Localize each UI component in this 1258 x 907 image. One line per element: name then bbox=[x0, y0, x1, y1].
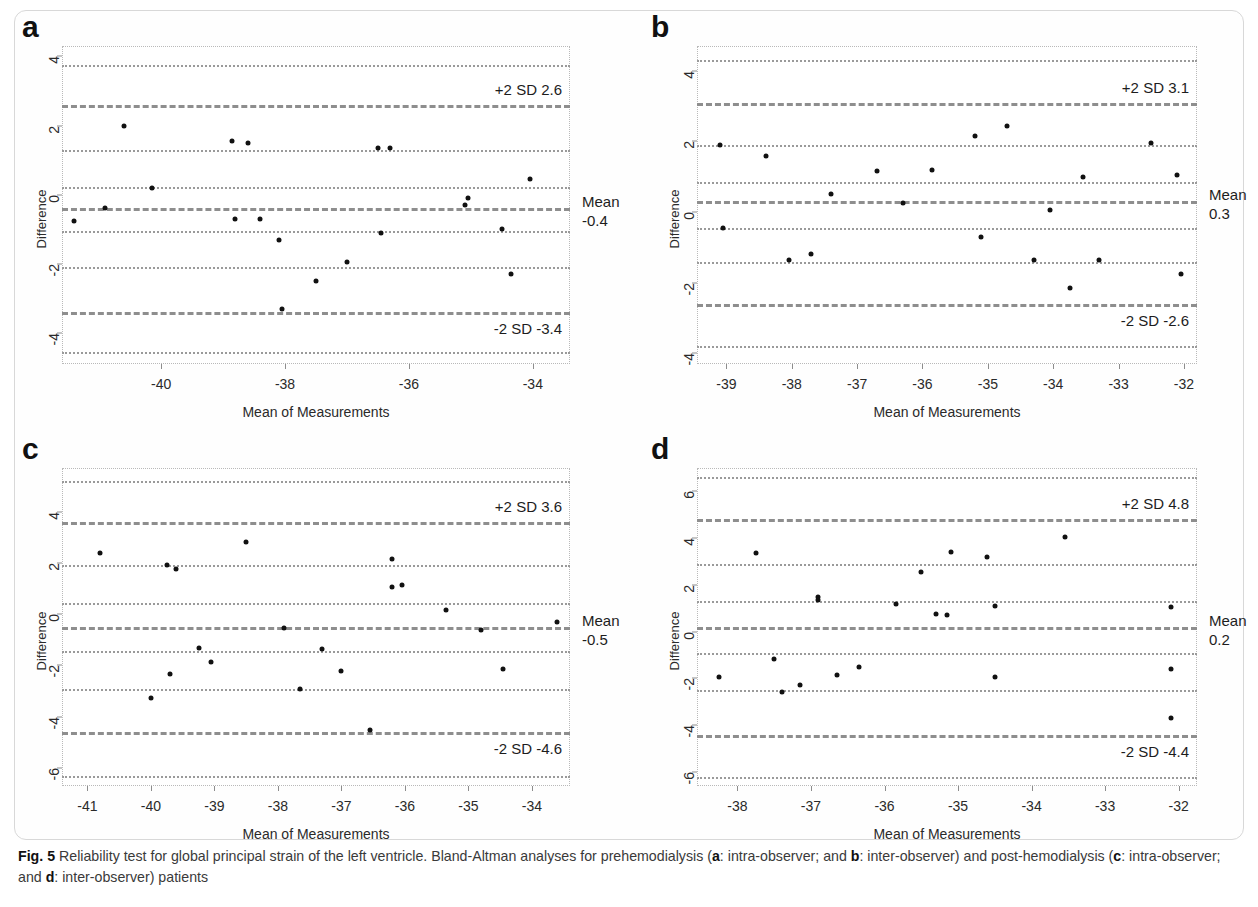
gridline bbox=[697, 60, 1197, 62]
y-axis-tick-mark bbox=[57, 56, 62, 57]
data-point bbox=[245, 140, 250, 145]
x-axis-tick-label: -38 bbox=[782, 376, 802, 392]
y-axis-tick-label: 2 bbox=[681, 141, 697, 149]
data-point bbox=[196, 645, 201, 650]
panel-c-mean-value: -0.5 bbox=[582, 631, 620, 650]
panel-b-upper-limit-label: +2 SD 3.1 bbox=[1122, 79, 1189, 96]
y-axis-tick-mark bbox=[57, 332, 62, 333]
panel-b-x-axis-title: Mean of Measurements bbox=[697, 404, 1197, 420]
data-point bbox=[320, 646, 325, 651]
data-point bbox=[209, 659, 214, 664]
panel-d-x-axis-title: Mean of Measurements bbox=[697, 826, 1197, 842]
x-axis-tick-mark bbox=[278, 786, 279, 791]
panel-a-mean-value: -0.4 bbox=[582, 212, 620, 231]
x-axis-tick-mark bbox=[1184, 364, 1185, 369]
data-point bbox=[809, 252, 814, 257]
panel-b-letter: b bbox=[651, 12, 669, 42]
limit-of-agreement-line bbox=[697, 103, 1197, 106]
y-axis-tick-mark bbox=[692, 771, 697, 772]
data-point bbox=[721, 225, 726, 230]
figure-caption-text-2: : intra-observer; and bbox=[720, 848, 851, 864]
data-point bbox=[900, 201, 905, 206]
limit-of-agreement-line bbox=[62, 732, 570, 735]
data-point bbox=[390, 585, 395, 590]
figure-caption-ref-d: d bbox=[46, 869, 55, 885]
data-point bbox=[1080, 174, 1085, 179]
data-point bbox=[945, 613, 950, 618]
panel-d: d Difference +2 SD 4.8 -2 SD -4.4 Mean 0… bbox=[629, 430, 1258, 852]
x-axis-tick-label: -34 bbox=[522, 798, 542, 814]
data-point bbox=[1067, 286, 1072, 291]
gridline bbox=[62, 565, 570, 567]
data-point bbox=[148, 695, 153, 700]
x-axis-tick-label: -37 bbox=[847, 376, 867, 392]
data-point bbox=[149, 185, 154, 190]
panel-b-mean-word: Mean bbox=[1209, 187, 1247, 206]
panel-a-mean-label: Mean -0.4 bbox=[582, 194, 620, 232]
data-point bbox=[834, 672, 839, 677]
x-axis-tick-label: -36 bbox=[399, 376, 419, 392]
data-point bbox=[555, 619, 560, 624]
gridline bbox=[697, 601, 1197, 603]
data-point bbox=[375, 145, 380, 150]
y-axis-tick-mark bbox=[692, 538, 697, 539]
panel-a-upper-limit-label: +2 SD 2.6 bbox=[495, 81, 562, 98]
data-point bbox=[164, 563, 169, 568]
x-axis-tick-label: -40 bbox=[151, 376, 171, 392]
x-axis-tick-label: -32 bbox=[1174, 376, 1194, 392]
data-point bbox=[279, 306, 284, 311]
y-axis-tick-label: 4 bbox=[681, 71, 697, 79]
x-axis-tick-mark bbox=[161, 364, 162, 369]
x-axis-tick-mark bbox=[214, 786, 215, 791]
x-axis-tick-mark bbox=[87, 786, 88, 791]
gridline bbox=[62, 776, 570, 778]
x-axis-tick-mark bbox=[1119, 364, 1120, 369]
data-point bbox=[893, 601, 898, 606]
x-axis-tick-label: -34 bbox=[523, 376, 543, 392]
data-point bbox=[930, 167, 935, 172]
y-axis-tick-label: -4 bbox=[681, 725, 697, 737]
x-axis-tick-mark bbox=[468, 786, 469, 791]
y-axis-tick-label: -2 bbox=[681, 283, 697, 295]
panel-a-plot-area: +2 SD 2.6 -2 SD -3.4 Mean -0.4 Mean of M… bbox=[62, 46, 570, 364]
y-axis-tick-mark bbox=[57, 716, 62, 717]
panel-a: a Difference +2 SD 2.6 -2 SD -3.4 Mean -… bbox=[0, 8, 629, 430]
limit-of-agreement-line bbox=[62, 105, 570, 108]
figure-caption-text-5: : inter-observer) patients bbox=[54, 869, 208, 885]
data-point bbox=[948, 550, 953, 555]
data-point bbox=[828, 192, 833, 197]
y-axis-tick-mark bbox=[57, 194, 62, 195]
x-axis-tick-mark bbox=[737, 786, 738, 791]
data-point bbox=[344, 260, 349, 265]
x-axis-tick-mark bbox=[811, 786, 812, 791]
limit-of-agreement-line bbox=[697, 519, 1197, 522]
x-axis-tick-label: -35 bbox=[978, 376, 998, 392]
x-axis-tick-label: -38 bbox=[275, 376, 295, 392]
x-axis-tick-mark bbox=[341, 786, 342, 791]
data-point bbox=[444, 608, 449, 613]
data-point bbox=[298, 686, 303, 691]
y-axis-tick-label: -4 bbox=[681, 353, 697, 365]
x-axis-tick-mark bbox=[1032, 786, 1033, 791]
data-point bbox=[121, 123, 126, 128]
y-axis-tick-mark bbox=[57, 562, 62, 563]
figure-caption-label: Fig. 5 bbox=[18, 848, 55, 864]
x-axis-tick-label: -37 bbox=[801, 798, 821, 814]
data-point bbox=[103, 206, 108, 211]
x-axis-tick-label: -40 bbox=[141, 798, 161, 814]
x-axis-tick-mark bbox=[792, 364, 793, 369]
data-point bbox=[479, 627, 484, 632]
data-point bbox=[388, 145, 393, 150]
data-point bbox=[763, 153, 768, 158]
gridline bbox=[697, 346, 1197, 348]
gridline bbox=[62, 352, 570, 354]
panel-a-lower-limit-label: -2 SD -3.4 bbox=[494, 320, 562, 337]
data-point bbox=[985, 554, 990, 559]
data-point bbox=[779, 690, 784, 695]
x-axis-tick-mark bbox=[285, 364, 286, 369]
limit-of-agreement-line bbox=[697, 735, 1197, 738]
data-point bbox=[933, 612, 938, 617]
x-axis-tick-mark bbox=[857, 364, 858, 369]
y-axis-tick-mark bbox=[57, 511, 62, 512]
panel-d-plot-area: +2 SD 4.8 -2 SD -4.4 Mean 0.2 Mean of Me… bbox=[697, 468, 1197, 786]
